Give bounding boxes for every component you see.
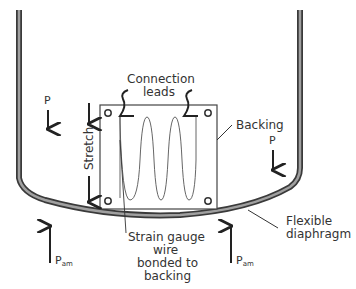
- pressure-label-right: P: [269, 134, 276, 147]
- strain-gauge-label-4: backing: [144, 269, 191, 283]
- strain-gauge-label-1: Strain gauge: [128, 230, 205, 244]
- strain-gauge-label-3: bonded to: [137, 256, 198, 270]
- pressure-label-left: P: [44, 94, 51, 107]
- strain-gauge-diagram: Connection leads Backing P P Stretch Pam…: [0, 0, 356, 289]
- backing-label: Backing: [236, 118, 284, 132]
- diaphragm-leader: [248, 210, 278, 228]
- backing-leader: [217, 125, 232, 140]
- ambient-pressure-left: Pam: [55, 254, 73, 268]
- diaphragm-label-2: diaphragm: [286, 227, 351, 241]
- ambient-pressure-right: Pam: [236, 254, 254, 268]
- backing-plate: [100, 105, 217, 209]
- diaphragm-label-1: Flexible: [286, 214, 332, 228]
- connection-label-2: leads: [143, 85, 175, 99]
- stretch-label: Stretch: [82, 127, 96, 170]
- connection-label-1: Connection: [127, 72, 195, 86]
- strain-gauge-label-2: wire: [153, 243, 178, 257]
